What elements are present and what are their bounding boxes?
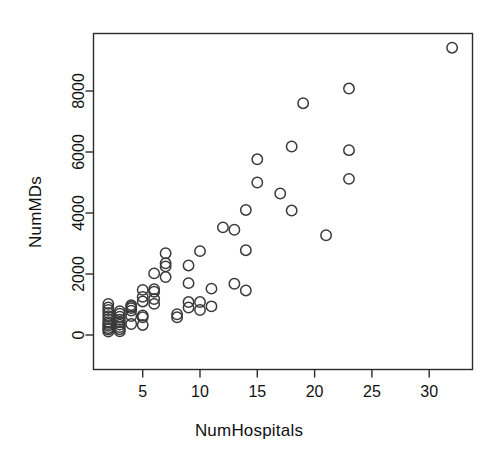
y-tick-label: 6000 [70,134,87,170]
y-axis-label: NumMDs [26,176,46,248]
data-point [149,286,159,296]
data-point [344,145,354,155]
data-point [344,174,354,184]
x-tick-label: 20 [306,383,324,400]
data-point-group [103,42,457,336]
data-point [183,260,193,270]
x-axis-ticks [143,370,430,378]
x-tick-label: 5 [138,383,147,400]
data-point [206,301,216,311]
data-point [252,177,262,187]
data-point [160,272,170,282]
y-tick-label: 2000 [70,256,87,292]
data-point [195,297,205,307]
x-tick-label: 25 [363,383,381,400]
x-axis-label: NumHospitals [0,421,498,441]
y-tick-label: 0 [70,330,87,339]
data-point [195,246,205,256]
data-point [252,154,262,164]
data-point [298,98,308,108]
x-tick-label: 10 [191,383,209,400]
plot-canvas: 51015202530 02000400060008000 [0,0,498,461]
scatter-plot-figure: 51015202530 02000400060008000 NumHospita… [0,0,498,461]
data-point [321,230,331,240]
data-point [241,285,251,295]
data-point [160,248,170,258]
data-point [275,188,285,198]
data-point [286,141,296,151]
x-tick-label: 30 [420,383,438,400]
data-point [241,245,251,255]
data-point [241,205,251,215]
x-tick-label: 15 [248,383,266,400]
data-point [229,225,239,235]
data-point [138,285,148,295]
data-point [229,279,239,289]
x-axis-tick-labels: 51015202530 [138,383,438,400]
data-point [344,83,354,93]
plot-box-border [94,34,473,370]
data-point [149,268,159,278]
y-tick-label: 8000 [70,73,87,109]
data-point [218,222,228,232]
y-tick-label: 4000 [70,195,87,231]
data-point [447,42,457,52]
data-point [183,278,193,288]
data-point [149,284,159,294]
data-point [286,205,296,215]
y-axis-tick-labels: 02000400060008000 [70,73,87,339]
data-point [206,283,216,293]
